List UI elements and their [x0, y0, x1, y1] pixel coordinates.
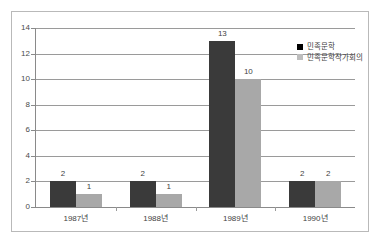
y-tick-label-0: 0 — [6, 202, 30, 211]
bar-1988년-series2 — [156, 194, 182, 207]
legend-label-series2: 민족문학작가회의 — [307, 54, 363, 62]
category-separator-1 — [116, 207, 117, 211]
y-tick-mark-2 — [31, 181, 35, 182]
y-tick-mark-8 — [31, 105, 35, 106]
y-tick-label-6: 6 — [6, 125, 30, 134]
category-separator-2 — [196, 207, 197, 211]
bar-1989년-series1 — [209, 41, 235, 207]
bar-1990년-series1 — [289, 181, 315, 207]
bar-label-1990년-series1: 2 — [289, 169, 315, 178]
bar-label-1989년-series2: 10 — [235, 67, 261, 76]
y-tick-label-8: 8 — [6, 100, 30, 109]
bar-1987년-series2 — [76, 194, 102, 207]
chart-figure: 02468101214 2121131022 1987년1988년1989년19… — [0, 0, 382, 245]
y-tick-mark-10 — [31, 79, 35, 80]
y-tick-mark-6 — [31, 130, 35, 131]
bar-label-1990년-series2: 2 — [315, 169, 341, 178]
bar-label-1987년-series2: 1 — [76, 182, 102, 191]
legend-label-series1: 민족문학 — [307, 43, 335, 51]
bar-1988년-series1 — [130, 181, 156, 207]
legend-item-series1: 민족문학 — [297, 43, 363, 51]
y-tick-mark-14 — [31, 28, 35, 29]
bar-1987년-series1 — [50, 181, 76, 207]
x-tick-label-1987년: 1987년 — [36, 212, 116, 223]
legend-swatch-series1 — [297, 44, 303, 50]
x-tick-label-1990년: 1990년 — [275, 212, 355, 223]
bar-label-1988년-series2: 1 — [156, 182, 182, 191]
y-tick-label-10: 10 — [6, 74, 30, 83]
bar-label-1989년-series1: 13 — [209, 29, 235, 38]
x-tick-label-1988년: 1988년 — [116, 212, 196, 223]
bar-1990년-series2 — [315, 181, 341, 207]
bar-1989년-series2 — [235, 79, 261, 207]
y-tick-mark-4 — [31, 156, 35, 157]
y-tick-label-4: 4 — [6, 151, 30, 160]
bar-label-1987년-series1: 2 — [50, 169, 76, 178]
x-tick-label-1989년: 1989년 — [196, 212, 276, 223]
y-tick-label-12: 12 — [6, 49, 30, 58]
bar-label-1988년-series1: 2 — [130, 169, 156, 178]
chart-legend: 민족문학민족문학작가회의 — [297, 43, 363, 61]
legend-item-series2: 민족문학작가회의 — [297, 54, 363, 62]
y-tick-mark-0 — [31, 207, 35, 208]
y-tick-label-2: 2 — [6, 176, 30, 185]
y-tick-mark-12 — [31, 54, 35, 55]
legend-swatch-series2 — [297, 54, 303, 60]
y-tick-label-14: 14 — [6, 23, 30, 32]
category-separator-3 — [275, 207, 276, 211]
